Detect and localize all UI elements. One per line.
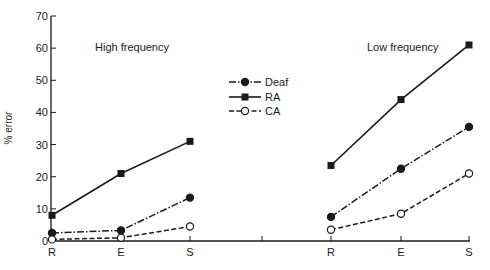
panel-label-high-frequency: High frequency	[95, 41, 169, 53]
legend-item-ra: RA	[229, 91, 281, 103]
ca-circle-marker	[465, 170, 472, 177]
deaf-circle-marker	[397, 165, 404, 172]
y-tick-label: 60	[36, 42, 48, 54]
legend-label: Deaf	[265, 76, 289, 88]
series-ra-low	[328, 41, 473, 169]
x-tick-label: E	[117, 246, 124, 258]
series-deaf-low	[327, 123, 472, 220]
deaf-circle-marker	[465, 123, 472, 130]
legend-item-deaf: Deaf	[229, 76, 289, 88]
ca-circle-marker	[117, 234, 124, 241]
ca-circle-marker	[327, 226, 334, 233]
panel-label-low-frequency: Low frequency	[367, 41, 439, 53]
x-tick-label: R	[327, 246, 335, 258]
x-tick-label: S	[465, 246, 472, 258]
ra-square-marker	[398, 96, 405, 103]
legend-circle-marker	[241, 78, 248, 85]
ra-square-marker	[118, 170, 125, 177]
deaf-circle-marker	[186, 194, 193, 201]
y-axis-title: % error	[3, 111, 14, 144]
x-tick-label: S	[186, 246, 193, 258]
x-tick-label: R	[48, 246, 56, 258]
ra-square-marker	[328, 162, 335, 169]
y-tick-label: 50	[36, 74, 48, 86]
deaf-circle-marker	[327, 213, 334, 220]
line-chart: 010203040506070% errorRESRESHigh frequen…	[0, 0, 490, 270]
ra-square-marker	[187, 138, 194, 145]
ca-line	[331, 174, 469, 230]
data-series	[48, 41, 472, 243]
ca-circle-marker	[48, 236, 55, 243]
deaf-circle-marker	[117, 227, 124, 234]
series-ca-low	[327, 170, 472, 233]
y-tick-label: 20	[36, 171, 48, 183]
legend-label: RA	[265, 91, 281, 103]
y-tick-label: 40	[36, 106, 48, 118]
labels: 010203040506070% errorRESRESHigh frequen…	[3, 10, 473, 258]
legend-circle-marker	[241, 107, 248, 114]
legend-item-ca: CA	[229, 105, 281, 117]
y-tick-label: 30	[36, 139, 48, 151]
ra-line	[52, 141, 190, 215]
legend-square-marker	[242, 94, 249, 101]
y-tick-label: 10	[36, 203, 48, 215]
ra-square-marker	[49, 212, 56, 219]
legend: DeafRACA	[229, 76, 289, 117]
ca-circle-marker	[397, 210, 404, 217]
x-tick-label: E	[397, 246, 404, 258]
y-tick-label: 70	[36, 10, 48, 22]
legend-label: CA	[265, 105, 281, 117]
ra-square-marker	[466, 41, 473, 48]
ca-circle-marker	[186, 223, 193, 230]
ra-line	[331, 45, 469, 166]
